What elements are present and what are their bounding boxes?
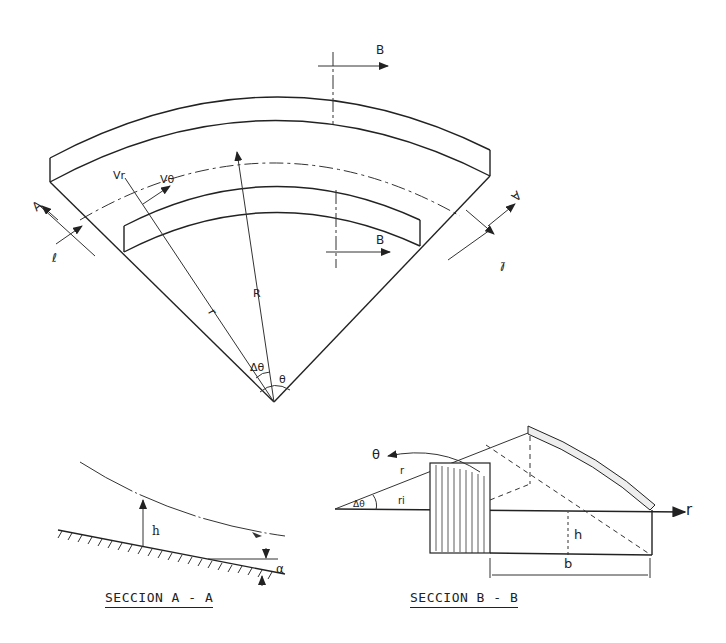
right-radial-edge <box>274 176 490 402</box>
section-a-slope-label: α <box>276 563 284 575</box>
plan-view-channel-bend <box>40 52 515 402</box>
section-b-bottom-label: B <box>376 234 384 246</box>
inner-wall-top-edge <box>124 186 420 226</box>
section-b-top-label: B <box>376 44 384 56</box>
section-b-r-axis-label: r <box>686 503 692 518</box>
centerline-left-symbol: ℓ <box>52 252 57 264</box>
bottom-edge <box>490 553 652 555</box>
section-b-r-curve-label: r <box>400 466 404 476</box>
channel-bed <box>58 530 285 574</box>
velocity-radial-label: Vr <box>113 170 125 181</box>
outer-wall-top-edge <box>50 97 490 158</box>
velocity-tangential-label: Vθ <box>160 174 174 185</box>
diagram-canvas <box>0 0 726 643</box>
centerline-right-symbol: ℓ <box>500 260 505 272</box>
theta-label: θ <box>279 374 286 385</box>
centerline-arc <box>80 163 460 220</box>
section-b-depth-label: h <box>574 528 582 541</box>
section-b-b <box>335 426 685 578</box>
r-axis <box>335 509 685 512</box>
section-a-caption: SECCION A - A <box>105 590 213 608</box>
water-surface <box>80 462 285 536</box>
section-b-width-label: b <box>564 557 572 570</box>
theta-arc <box>260 385 290 392</box>
section-b-caption: SECCION B - B <box>410 590 518 608</box>
radius-R-label: R <box>253 288 261 299</box>
section-b-theta-label: θ <box>372 448 380 461</box>
section-b-delta-theta-label: Δθ <box>353 500 365 509</box>
section-b-ri-label: ri <box>398 496 405 506</box>
delta-theta-label: Δθ <box>250 362 264 373</box>
v-theta-arrow <box>143 186 170 204</box>
section-a-a <box>58 462 285 586</box>
section-a-depth-label: h <box>152 525 160 537</box>
